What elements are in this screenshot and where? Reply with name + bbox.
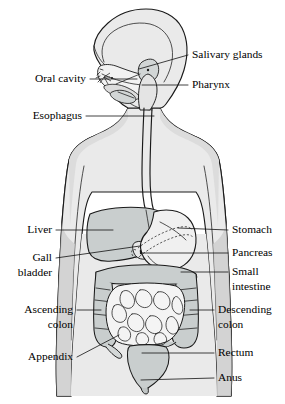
label-liver: Liver xyxy=(27,223,52,235)
label-gall-bladder-line1: Gall xyxy=(32,251,52,263)
label-ascending-colon-line2: colon xyxy=(48,318,74,330)
digestive-system-figure: Oral cavity Esophagus Liver Gall bladder… xyxy=(0,0,285,404)
label-pancreas: Pancreas xyxy=(232,246,273,258)
label-salivary-glands: Salivary glands xyxy=(192,48,263,60)
label-ascending-colon-line1: Ascending xyxy=(24,303,73,315)
label-small-intestine-line1: Small xyxy=(232,265,259,277)
label-appendix: Appendix xyxy=(28,350,73,362)
label-pharynx: Pharynx xyxy=(192,78,230,90)
small-intestine xyxy=(106,283,185,346)
label-gall-bladder-line2: bladder xyxy=(18,266,52,278)
label-rectum: Rectum xyxy=(218,346,254,358)
label-anus: Anus xyxy=(218,371,243,383)
label-esophagus: Esophagus xyxy=(33,109,83,121)
label-small-intestine-line2: intestine xyxy=(232,280,271,292)
label-descending-colon-line2: colon xyxy=(218,318,244,330)
label-descending-colon-line1: Descending xyxy=(218,303,272,315)
label-oral-cavity: Oral cavity xyxy=(35,72,86,84)
label-stomach: Stomach xyxy=(232,223,272,235)
